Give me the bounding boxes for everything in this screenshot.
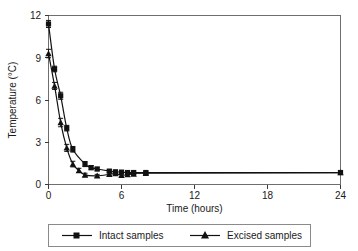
data-point-triangle (51, 83, 57, 89)
temperature-vs-time-chart: 12 9 6 3 0 0 6 12 18 24 Time (hours) Tem… (0, 0, 358, 251)
square-marker-icon (74, 233, 80, 239)
data-point-square (88, 165, 93, 170)
y-tick-label-9: 9 (35, 53, 41, 64)
y-axis-title: Temperature (°C) (7, 62, 18, 139)
data-point-square (95, 166, 100, 171)
legend-label-excised: Excised samples (227, 230, 302, 241)
y-axis-ticks: 12 9 6 3 0 (30, 10, 49, 190)
legend-entry-intact[interactable]: Intact samples (62, 230, 163, 241)
series-intact (46, 20, 343, 175)
series-line-0 (49, 24, 341, 173)
x-tick-label-12: 12 (189, 190, 201, 201)
data-point-square (46, 21, 51, 26)
y-tick-label-3: 3 (35, 137, 41, 148)
chart-legend: Intact samples Excised samples (49, 225, 311, 247)
chart-figure: 12 9 6 3 0 0 6 12 18 24 Time (hours) Tem… (0, 0, 358, 251)
x-axis-ticks: 0 6 12 18 24 (46, 185, 347, 202)
x-tick-label-24: 24 (335, 190, 347, 201)
y-tick-label-6: 6 (35, 95, 41, 106)
data-point-triangle (57, 119, 63, 125)
data-point-triangle (82, 172, 88, 178)
series-line-1 (49, 54, 341, 176)
data-series-layer (45, 20, 343, 178)
triangle-marker-icon (201, 231, 209, 239)
plot-frame (49, 16, 341, 185)
data-point-square (82, 161, 87, 166)
data-point-square (52, 66, 57, 71)
data-point-square (70, 147, 75, 152)
y-tick-label-12: 12 (30, 10, 42, 21)
data-point-square (58, 93, 63, 98)
x-axis-title: Time (hours) (166, 203, 222, 214)
data-point-square (64, 126, 69, 131)
data-point-triangle (70, 161, 76, 167)
x-tick-label-18: 18 (262, 190, 274, 201)
y-tick-label-0: 0 (35, 179, 41, 190)
legend-label-intact: Intact samples (99, 230, 163, 241)
data-point-triangle (64, 145, 70, 151)
legend-entry-excised[interactable]: Excised samples (190, 230, 302, 241)
x-tick-label-6: 6 (119, 190, 125, 201)
series-excised (45, 49, 343, 178)
data-point-triangle (45, 50, 51, 56)
x-tick-label-0: 0 (46, 190, 52, 201)
